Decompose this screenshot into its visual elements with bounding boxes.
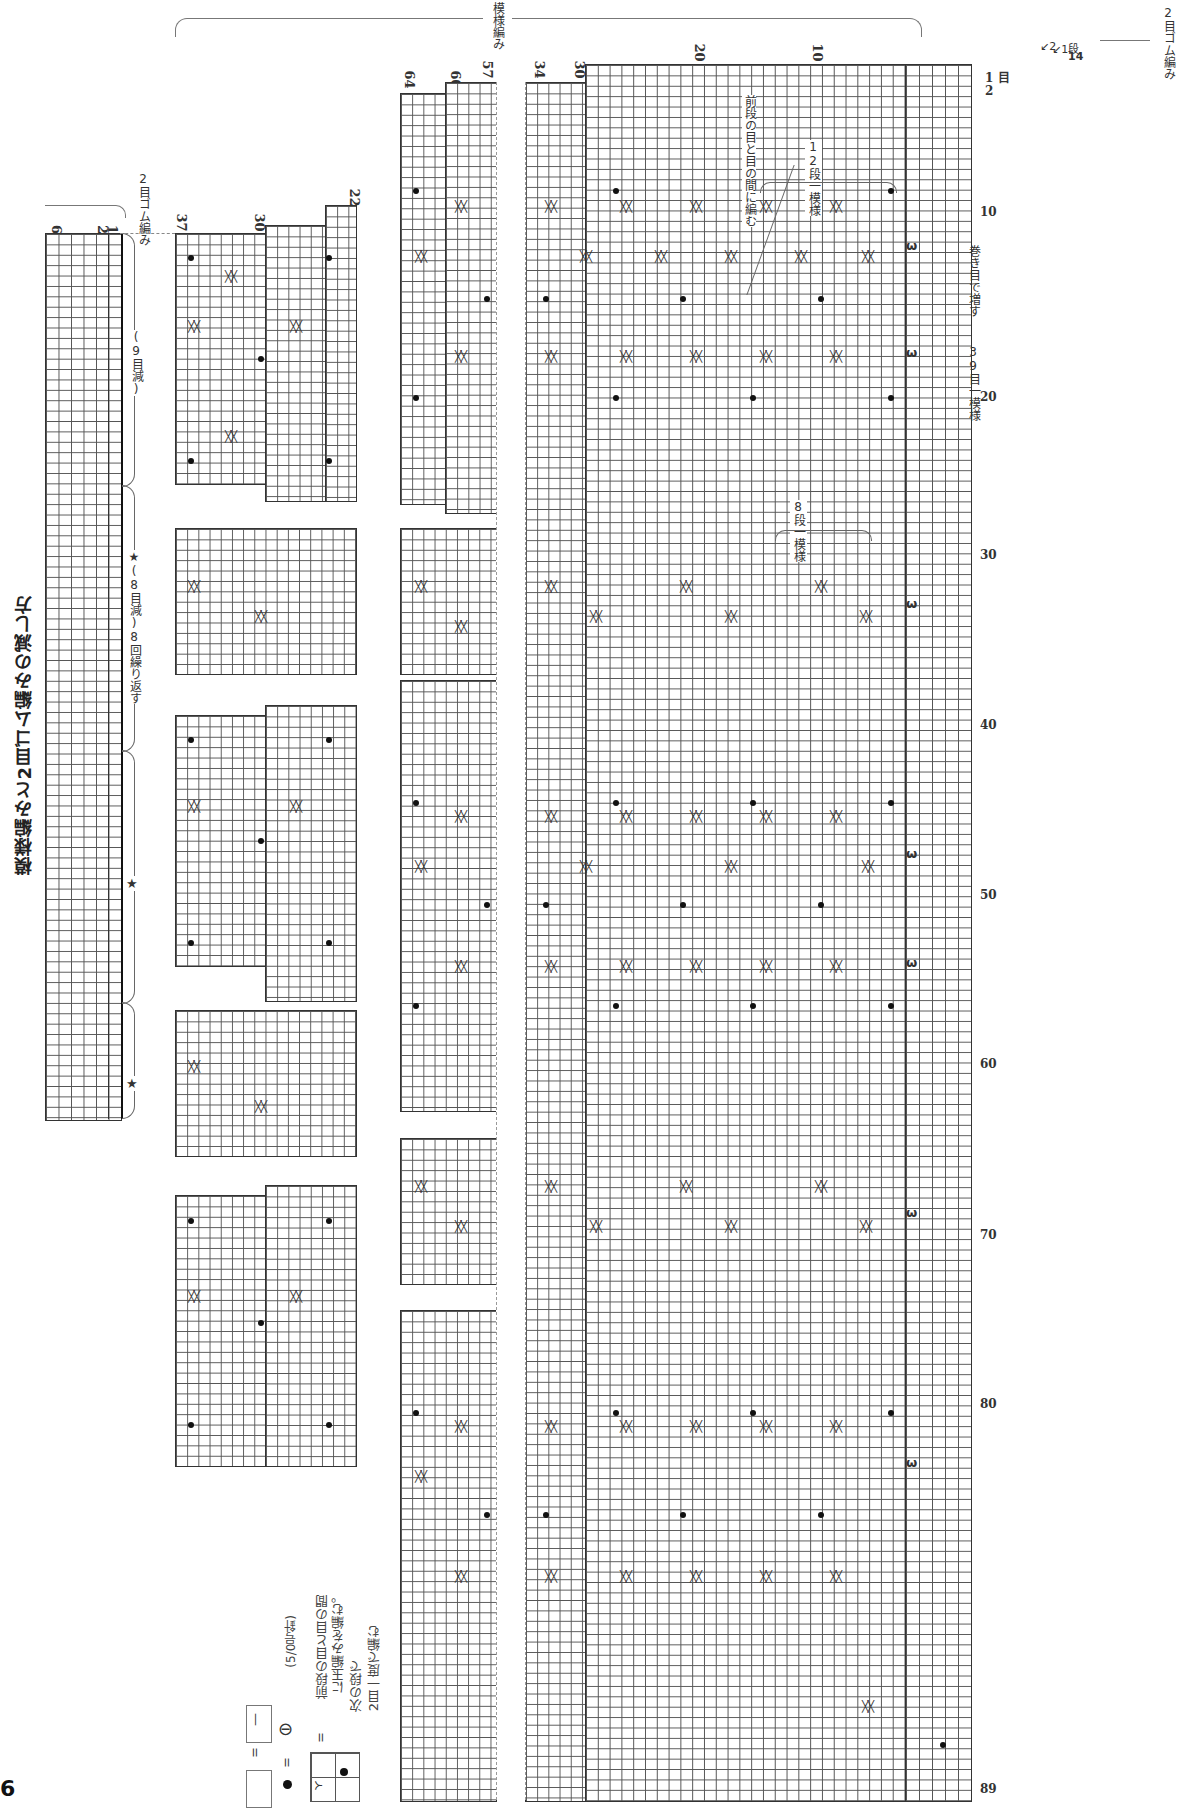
bobble-dot bbox=[413, 800, 419, 806]
legend-equals-3: = bbox=[314, 1732, 329, 1743]
cable-cross-icon: ╳╳ bbox=[862, 860, 873, 873]
star-marker-1: ★ bbox=[126, 876, 138, 891]
bobble-icon: ⊖ bbox=[278, 1718, 293, 1739]
cable-cross-icon: ╳╳ bbox=[188, 1290, 199, 1303]
decrease-symbol-icon: ㅅ bbox=[310, 1779, 330, 1792]
bobble-dot bbox=[613, 1410, 619, 1416]
stitch-number-10: 10 bbox=[980, 205, 997, 219]
bobble-dot bbox=[413, 188, 419, 194]
bobble-dot bbox=[750, 395, 756, 401]
cable-cross-icon: ╳╳ bbox=[725, 860, 736, 873]
bobble-dot bbox=[680, 1512, 686, 1518]
cable-cross-icon: ╳╳ bbox=[545, 1420, 556, 1433]
cable-cross-icon: ╳╳ bbox=[620, 200, 631, 213]
cable-cross-icon: ╳╳ bbox=[620, 960, 631, 973]
stitch-number-89: 89 bbox=[980, 1782, 997, 1796]
cable-cross-icon: ╳╳ bbox=[415, 580, 426, 593]
cable-cross-icon: ╳╳ bbox=[620, 1570, 631, 1583]
cable-cross-icon: ╳╳ bbox=[690, 1570, 701, 1583]
chart-block-left-1 bbox=[175, 233, 267, 485]
cable-cross-icon: ╳╳ bbox=[455, 1220, 466, 1233]
bobble-dot bbox=[413, 1410, 419, 1416]
cable-cross-icon: ╳╳ bbox=[655, 250, 666, 263]
pattern-knit-label: 模様編み bbox=[483, 2, 512, 50]
bobble-dot bbox=[818, 296, 824, 302]
legend-equals-1: = bbox=[248, 1747, 263, 1758]
chart-block-left-3b bbox=[265, 705, 357, 1002]
cast-on-marker-icon: ω bbox=[906, 238, 917, 253]
cable-cross-icon: ╳╳ bbox=[760, 960, 771, 973]
chart-block-mid-3 bbox=[400, 680, 497, 1112]
pattern-bracket bbox=[175, 18, 922, 37]
cable-cross-icon: ╳╳ bbox=[580, 250, 591, 263]
mid-row-64: 64 bbox=[402, 70, 417, 88]
cable-cross-icon: ╳╳ bbox=[455, 1420, 466, 1433]
bobble-dot bbox=[484, 296, 490, 302]
rib-top-bracket bbox=[1100, 40, 1150, 51]
cable-cross-icon: ╳╳ bbox=[860, 1220, 871, 1233]
bobble-dot bbox=[413, 395, 419, 401]
chart-block-left-5b bbox=[265, 1185, 357, 1467]
bobble-desc-4: 2目一度で編む bbox=[364, 1625, 383, 1711]
bobble-dot bbox=[326, 255, 332, 261]
cable-cross-icon: ╳╳ bbox=[690, 350, 701, 363]
bobble-dot bbox=[188, 737, 194, 743]
stitch-number-70: 70 bbox=[980, 1228, 997, 1242]
stitch-number-80: 80 bbox=[980, 1397, 997, 1411]
column-separator bbox=[496, 82, 526, 1800]
chart-block-main-b bbox=[585, 64, 907, 1802]
eight-dec-repeat-label: ★(8目減)8回繰り返す bbox=[126, 550, 143, 704]
cable-cross-icon: ╳╳ bbox=[815, 1180, 826, 1193]
bobble-dot bbox=[326, 940, 332, 946]
bobble-dot bbox=[543, 1512, 549, 1518]
bobble-dot bbox=[326, 1218, 332, 1224]
twelve-row-bracket bbox=[760, 182, 897, 193]
legend-blank-cell bbox=[246, 1770, 272, 1808]
cable-cross-icon: ╳╳ bbox=[760, 350, 771, 363]
bobble-dot bbox=[326, 737, 332, 743]
bobble-dot bbox=[888, 1003, 894, 1009]
bobble-dot bbox=[613, 800, 619, 806]
cable-cross-icon: ╳╳ bbox=[830, 350, 841, 363]
cable-cross-icon: ╳╳ bbox=[188, 320, 199, 333]
cable-cross-icon: ╳╳ bbox=[545, 810, 556, 823]
cable-cross-icon: ╳╳ bbox=[455, 200, 466, 213]
bobble-dot bbox=[940, 1742, 946, 1748]
between-stitches-note: 前段の目と目の間に編む bbox=[742, 95, 756, 227]
bobble-dot bbox=[750, 1003, 756, 1009]
bobble-dot bbox=[613, 1003, 619, 1009]
bobble-dot bbox=[188, 1218, 194, 1224]
cable-cross-icon: ╳╳ bbox=[830, 960, 841, 973]
cable-cross-icon: ╳╳ bbox=[760, 1420, 771, 1433]
cable-cross-icon: ╳╳ bbox=[590, 610, 601, 623]
cable-cross-icon: ╳╳ bbox=[455, 620, 466, 633]
bobble-dot bbox=[888, 395, 894, 401]
bobble-dot bbox=[188, 1422, 194, 1428]
twelve-row-repeat-note: 12段一模様 bbox=[805, 140, 822, 216]
legend-equals-2: = bbox=[280, 1757, 295, 1768]
cable-cross-icon: ╳╳ bbox=[545, 580, 556, 593]
cable-cross-icon: ╳╳ bbox=[680, 580, 691, 593]
cable-cross-icon: ╳╳ bbox=[255, 610, 266, 623]
cast-on-increase-note: 巻き目で増す bbox=[965, 245, 982, 317]
cable-cross-icon: ╳╳ bbox=[255, 1100, 266, 1113]
chart-block-left-1b bbox=[265, 225, 327, 502]
chart-block-main-a bbox=[525, 82, 587, 1802]
cable-cross-icon: ╳╳ bbox=[225, 270, 236, 283]
bobble-dot bbox=[413, 1003, 419, 1009]
cable-cross-icon: ╳╳ bbox=[690, 810, 701, 823]
rib-left-label: 2目ゴム編み bbox=[135, 172, 152, 246]
row-14-marker: 14 bbox=[1068, 50, 1083, 63]
cable-cross-icon: ╳╳ bbox=[690, 1420, 701, 1433]
bobble-dot bbox=[543, 902, 549, 908]
bobble-dot bbox=[888, 800, 894, 806]
bobble-dot bbox=[326, 458, 332, 464]
cable-cross-icon: ╳╳ bbox=[680, 1180, 691, 1193]
stitch-number-30: 30 bbox=[980, 548, 997, 562]
cable-cross-icon: ╳╳ bbox=[725, 1220, 736, 1233]
bobble-dot bbox=[818, 1512, 824, 1518]
bobble-dot bbox=[543, 296, 549, 302]
star-bracket-2 bbox=[122, 1002, 135, 1119]
cable-cross-icon: ╳╳ bbox=[455, 810, 466, 823]
chart-block-mid-1 bbox=[400, 93, 447, 505]
